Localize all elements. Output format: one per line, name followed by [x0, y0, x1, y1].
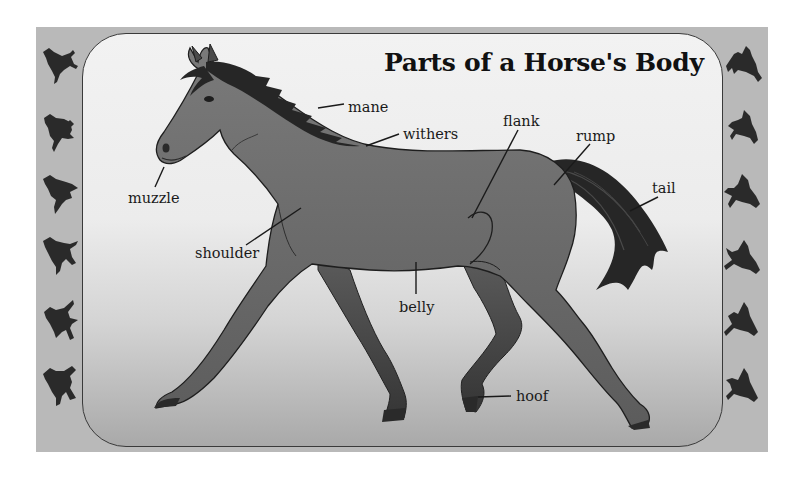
- leader-muzzle: [155, 167, 164, 187]
- label-rump: rump: [576, 128, 615, 144]
- far-front-leg: [318, 262, 406, 420]
- leader-withers: [366, 134, 399, 146]
- label-tail: tail: [652, 180, 676, 196]
- leader-mane: [318, 104, 344, 108]
- label-belly: belly: [399, 299, 434, 315]
- horse-body: [156, 48, 649, 428]
- label-hoof: hoof: [516, 388, 548, 404]
- leader-hoof: [478, 396, 511, 397]
- label-shoulder: shoulder: [195, 245, 259, 261]
- label-mane: mane: [348, 99, 388, 115]
- diagram-title: Parts of a Horse's Body: [384, 48, 704, 77]
- label-withers: withers: [403, 126, 458, 142]
- label-flank: flank: [503, 113, 539, 129]
- label-muzzle: muzzle: [128, 190, 180, 206]
